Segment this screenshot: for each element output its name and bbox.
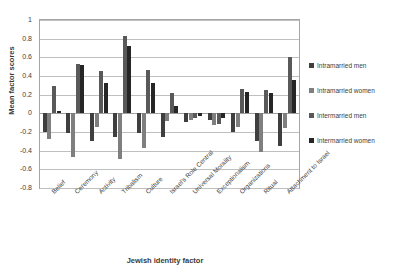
y-axis-tick: -0.8 [20,184,32,191]
y-axis-tick: -0.6 [20,165,32,172]
bar-group [111,20,135,188]
bar [189,113,193,120]
bar [43,113,47,132]
bar [137,113,141,133]
bar [165,113,169,120]
x-axis-title: Jewish identity factor [0,256,330,265]
y-axis-tick: 0.4 [22,72,32,79]
bar [118,113,122,159]
bar [161,113,165,136]
bar [278,113,282,146]
bar [170,93,174,114]
bar-chart: 10.80.60.40.20-0.2-0.4-0.6-0.8 Mean fact… [0,0,398,274]
y-axis-title: Mean factor scores [7,39,16,123]
legend-swatch-icon [309,88,314,93]
bar-group [134,20,158,188]
bar-group [275,20,299,188]
bar [76,64,80,113]
bar [221,113,225,118]
y-axis-tick: 0.6 [22,53,32,60]
bar [217,113,221,123]
bar [288,57,292,113]
legend-swatch-icon [309,138,314,143]
y-axis-tick: 1 [28,16,32,23]
y-axis-tick: 0.2 [22,90,32,97]
legend-item: Intramarried men [309,62,397,71]
legend-item: Intramarried women [309,87,397,96]
bar [52,86,56,113]
bar [99,71,103,113]
bar [255,113,259,141]
bar [123,36,127,113]
bar [212,113,216,124]
bar [236,113,240,127]
y-axis-tick: 0.8 [22,34,32,41]
bar-group [40,20,64,188]
legend-item: Intermarried women [309,137,397,146]
legend-label: Intermarried women [317,137,375,145]
legend-label: Intermarried men [317,112,367,120]
y-axis-tick-labels: 10.80.60.40.20-0.2-0.4-0.6-0.8 [0,19,36,189]
bar [231,113,235,132]
bar [283,113,287,128]
y-axis-tick: -0.4 [20,146,32,153]
plot-area [39,19,300,189]
bar [264,90,268,113]
legend-swatch-icon [309,113,314,118]
bar [198,113,202,116]
bar [127,46,131,113]
bar [95,113,99,127]
bar [151,83,155,113]
bar [245,92,249,113]
y-axis-tick: -0.2 [20,128,32,135]
x-axis-tick-labels: BeliefCeremonyActivityTribalismCultureIs… [39,190,300,250]
bar [208,113,212,120]
y-axis-tick: 0 [28,109,32,116]
bar [113,113,117,136]
bar [80,65,84,114]
bar [47,113,51,138]
bar [71,113,75,157]
bar [90,113,94,141]
chart-legend: Intramarried menIntramarried womenInterm… [309,62,397,162]
bar [57,111,61,114]
legend-label: Intramarried men [317,62,367,70]
bar-group [64,20,88,188]
bar [292,80,296,114]
legend-swatch-icon [309,63,314,68]
bar [66,113,70,133]
bar [193,113,197,118]
bar [104,83,108,114]
bar-group [87,20,111,188]
legend-item: Intermarried men [309,112,397,121]
bar-group [158,20,182,188]
bar [142,113,146,148]
bar [269,93,273,114]
bar [174,106,178,113]
bar [184,113,188,121]
bar [259,113,263,151]
bars-layer [40,20,299,188]
bar [240,89,244,113]
bar [146,70,150,113]
legend-label: Intramarried women [317,87,375,95]
